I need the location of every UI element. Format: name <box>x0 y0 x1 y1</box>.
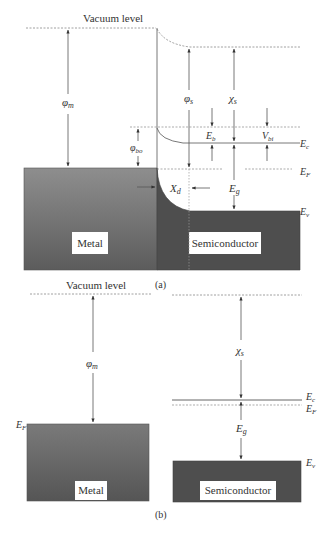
eb-label: Eb <box>205 130 216 143</box>
semiconductor-label-a: Semiconductor <box>192 237 259 249</box>
caption-b: (b) <box>155 509 167 521</box>
vacuum-level-label-b: Vacuum level <box>66 279 126 291</box>
phi-m-label-b: φm <box>86 357 98 371</box>
metal-block-a <box>24 168 157 270</box>
xd-label: Xd <box>169 182 182 196</box>
phi-bo-label: φbo <box>130 142 143 155</box>
ef-label-a: EF <box>299 166 311 179</box>
conduction-band-line-a <box>157 128 300 143</box>
ev-label-a: Ev <box>299 206 310 219</box>
panel-a: Vacuum level Metal Semiconductor φm φbo … <box>24 12 311 291</box>
panel-b: Vacuum level Metal EF φm Semiconductor χ… <box>15 279 317 521</box>
metal-label-a: Metal <box>77 237 103 249</box>
vacuum-level-label-a: Vacuum level <box>83 12 143 24</box>
band-diagram: Vacuum level Metal Semiconductor φm φbo … <box>0 0 333 541</box>
vbi-label: Vbi <box>262 130 274 143</box>
caption-a: (a) <box>155 279 166 291</box>
ef-label-semi-b: EF <box>305 403 317 416</box>
chi-s-label-a: χs <box>228 92 237 106</box>
phi-s-label: φs <box>184 92 193 106</box>
ev-label-b: Ev <box>305 457 316 470</box>
eg-label-a: Eg <box>228 182 240 196</box>
chi-s-label-b: χs <box>235 344 244 358</box>
metal-label-b: Metal <box>78 484 104 496</box>
eg-label-b: Eg <box>235 422 247 436</box>
semiconductor-label-b: Semiconductor <box>205 484 272 496</box>
ef-label-metal-b: EF <box>15 419 27 432</box>
ec-label-a: Ec <box>299 138 310 151</box>
vacuum-level-line-semiconductor <box>157 29 300 47</box>
phi-m-label-a: φm <box>62 96 74 110</box>
